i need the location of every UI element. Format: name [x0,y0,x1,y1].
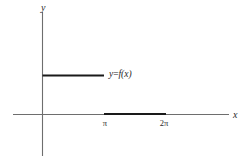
x-tick-label-2pi: 2π [156,119,172,128]
function-graph-figure: y x π 2π y=f(x) [0,0,249,165]
function-label-argument: (x) [121,69,132,79]
y-axis-label: y [41,3,45,13]
x-axis-label: x [233,110,237,120]
function-label: y=f(x) [109,70,132,80]
graph-canvas [0,0,249,165]
x-tick-label-pi: π [99,119,111,128]
